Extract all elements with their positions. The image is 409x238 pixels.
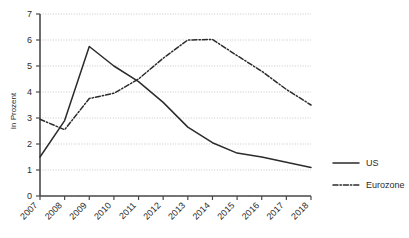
y-tick-label: 0	[27, 191, 32, 201]
x-tick-label: 2013	[166, 200, 187, 221]
y-tick-label: 4	[27, 87, 32, 97]
y-axis-title: In Prozent	[9, 92, 18, 129]
x-tick-label: 2009	[67, 200, 88, 221]
x-tick-label: 2010	[92, 200, 113, 221]
chart-legend: USEurozone	[333, 158, 405, 190]
x-tick-label: 2011	[117, 200, 138, 221]
y-tick-label: 3	[27, 113, 32, 123]
x-tick-label: 2018	[289, 200, 310, 221]
x-tick-label: 2012	[141, 200, 162, 221]
legend-label-eurozone: Eurozone	[366, 180, 405, 190]
x-tick-label: 2014	[191, 200, 212, 221]
x-tick-label: 2016	[240, 200, 261, 221]
gridlines	[40, 14, 311, 196]
y-tick-label: 5	[27, 61, 32, 71]
line-chart: 01234567 2007200820092010201120122013201…	[0, 0, 409, 238]
series-lines	[40, 39, 311, 167]
chart-canvas: 01234567 2007200820092010201120122013201…	[0, 0, 409, 238]
y-axis-tick-labels: 01234567	[27, 9, 32, 201]
x-tick-label: 2008	[43, 200, 64, 221]
y-axis-title-label: In Prozent	[9, 92, 18, 129]
x-tick-label: 2007	[18, 200, 39, 221]
series-line-us	[40, 47, 311, 168]
y-tick-label: 1	[27, 165, 32, 175]
x-tick-label: 2015	[215, 200, 236, 221]
x-axis-tick-labels: 2007200820092010201120122013201420152016…	[18, 200, 310, 221]
y-tick-label: 6	[27, 35, 32, 45]
y-tick-label: 2	[27, 139, 32, 149]
y-tick-label: 7	[27, 9, 32, 19]
series-line-eurozone	[40, 39, 311, 129]
x-tick-label: 2017	[265, 200, 286, 221]
legend-label-us: US	[366, 158, 379, 168]
